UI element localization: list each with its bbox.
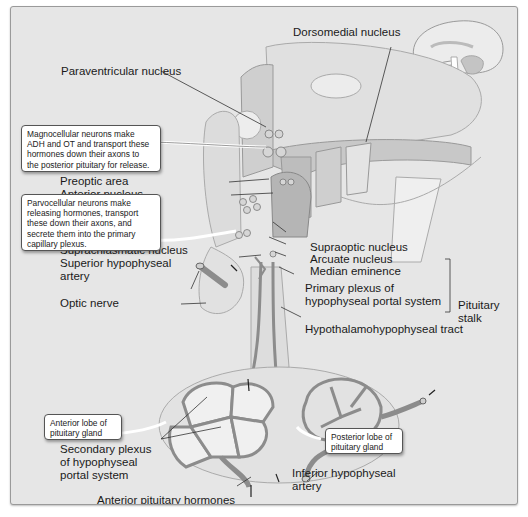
label-preoptic-area: Preoptic area	[60, 175, 128, 188]
label-median-eminence: Median eminence	[310, 265, 401, 278]
label-line: hypophyseal portal system	[305, 295, 441, 307]
callout-line: pituitary gland	[50, 428, 116, 438]
callout-line: Anterior lobe of	[50, 418, 116, 428]
callout-line: capillary plexus.	[27, 239, 155, 249]
label-superior-hypophyseal-artery: Superior hypophyseal artery	[60, 257, 171, 283]
label-inferior-hypophyseal-artery: Inferior hypophyseal artery	[292, 467, 396, 493]
callout-line: Parvocellular neurons make	[27, 198, 155, 208]
label-line: artery	[60, 270, 89, 282]
label-line: Inferior hypophyseal	[292, 467, 396, 479]
label-paraventricular-nucleus: Paraventricular nucleus	[61, 65, 181, 78]
label-pituitary-stalk: Pituitary stalk	[458, 299, 500, 325]
label-anterior-pituitary-hormones: Anterior pituitary hormones	[97, 494, 235, 505]
label-line: Secondary plexus	[60, 443, 151, 455]
hypothalamus-tissue	[203, 42, 481, 262]
callout-line: these down their axons, and	[27, 218, 155, 228]
callout-line: releasing hormones, transport	[27, 208, 155, 218]
label-line: Superior hypophyseal	[60, 257, 171, 269]
callout-line: the posterior pituitary for release.	[27, 160, 155, 170]
label-hypothalamohypophyseal-tract: Hypothalamohypophyseal tract	[305, 323, 463, 336]
callout-line: hormones down their axons to	[27, 149, 155, 159]
label-secondary-plexus: Secondary plexus of hypophyseal portal s…	[60, 443, 151, 482]
label-line: portal system	[60, 469, 128, 481]
callout-line: ADH and OT and transport these	[27, 139, 155, 149]
label-dorsomedial-nucleus: Dorsomedial nucleus	[293, 26, 400, 39]
callout-parvocellular: Parvocellular neurons make releasing hor…	[21, 194, 161, 251]
label-line: artery	[292, 480, 321, 492]
callout-posterior-lobe: Posterior lobe of pituitary gland	[325, 428, 403, 454]
callout-line: secrete them into the primary	[27, 229, 155, 239]
label-primary-plexus: Primary plexus of hypophyseal portal sys…	[305, 282, 441, 308]
callout-anterior-lobe: Anterior lobe of pituitary gland	[44, 414, 122, 440]
callout-line: pituitary gland	[331, 442, 397, 452]
label-line: Primary plexus of	[305, 282, 394, 294]
label-optic-nerve: Optic nerve	[60, 297, 119, 310]
label-line: of hypophyseal	[60, 456, 137, 468]
callout-line: Posterior lobe of	[331, 432, 397, 442]
callout-magnocellular: Magnocellular neurons make ADH and OT an…	[21, 125, 161, 172]
label-line: Pituitary	[458, 299, 500, 311]
figure-frame: Dorsomedial nucleus Paraventricular nucl…	[10, 6, 518, 505]
callout-line: Magnocellular neurons make	[27, 129, 155, 139]
